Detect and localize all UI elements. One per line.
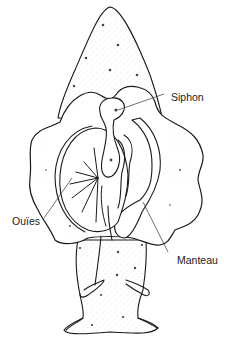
lower-body xyxy=(64,240,158,334)
label-ouies: Ouïes xyxy=(12,216,40,227)
mollusk-anatomy-diagram: Siphon Ouïes Manteau xyxy=(0,0,225,342)
label-siphon: Siphon xyxy=(171,92,204,103)
funnel-dot xyxy=(110,159,113,162)
label-manteau: Manteau xyxy=(177,255,218,266)
siphon-dot xyxy=(114,108,117,111)
anatomy-illustration xyxy=(0,0,225,342)
gill-chamber xyxy=(60,128,128,232)
